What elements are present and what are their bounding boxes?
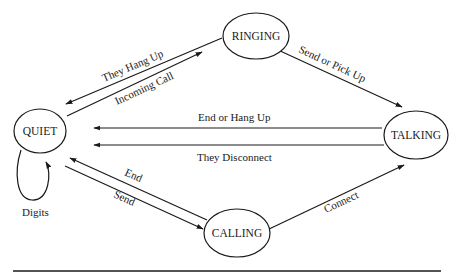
state-quiet: QUIET xyxy=(14,109,66,153)
state-calling: CALLING xyxy=(204,209,270,257)
state-ringing-label: RINGING xyxy=(232,30,281,42)
state-ringing: RINGING xyxy=(223,13,289,59)
state-talking-label: TALKING xyxy=(391,129,441,141)
label-connect: Connect xyxy=(322,188,360,214)
state-diagram: They Hang Up Incoming Call Send or Pick … xyxy=(0,0,454,278)
label-end-or-hang-up: End or Hang Up xyxy=(198,111,271,123)
label-send: Send xyxy=(112,188,137,208)
label-digits: Digits xyxy=(22,206,49,218)
edge-quiet-self-loop xyxy=(17,150,49,200)
edge-ringing-to-talking xyxy=(265,44,402,107)
state-calling-label: CALLING xyxy=(212,227,262,239)
label-they-disconnect: They Disconnect xyxy=(197,151,272,163)
label-end: End xyxy=(123,166,145,184)
state-talking: TALKING xyxy=(384,111,448,159)
edge-calling-to-quiet xyxy=(70,158,207,220)
state-quiet-label: QUIET xyxy=(23,125,58,137)
